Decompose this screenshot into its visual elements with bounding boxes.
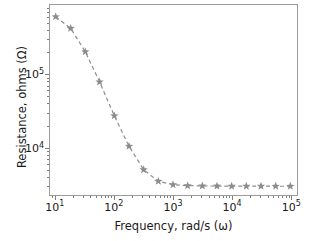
x-tick-minor: [170, 196, 171, 198]
x-tick-minor: [209, 196, 210, 198]
x-tick-minor: [219, 196, 220, 198]
figure-canvas: 101102103104105 104105 Frequency, rad/s …: [0, 0, 310, 241]
x-tick-minor: [250, 196, 251, 198]
x-tick-minor: [229, 196, 230, 198]
x-tick-minor: [191, 196, 192, 198]
y-tick-minor: [47, 39, 49, 40]
data-point-marker: [286, 182, 294, 190]
y-tick-minor: [47, 186, 49, 187]
x-tick-minor: [214, 196, 215, 198]
data-point-marker: [184, 181, 192, 189]
plot-area: [49, 4, 298, 196]
y-tick-minor: [47, 23, 49, 24]
x-tick-minor: [260, 196, 261, 198]
x-tick-label: 104: [223, 200, 242, 213]
data-point-marker: [228, 182, 236, 190]
x-tick-minor: [226, 196, 227, 198]
x-tick-minor: [286, 196, 287, 198]
x-tick-minor: [101, 196, 102, 198]
y-tick-minor: [47, 170, 49, 171]
x-tick-label: 103: [163, 200, 182, 213]
data-point-marker: [213, 182, 221, 190]
data-point-marker: [110, 111, 118, 119]
x-tick-minor: [223, 196, 224, 198]
data-point-marker: [257, 182, 265, 190]
x-tick-minor: [83, 196, 84, 198]
data-point-marker: [242, 182, 250, 190]
y-tick-minor: [47, 8, 49, 9]
data-point-marker: [198, 182, 206, 190]
y-tick-minor: [47, 177, 49, 178]
data-point-marker: [95, 78, 103, 86]
x-tick-minor: [111, 196, 112, 198]
y-tick-minor: [47, 113, 49, 114]
y-tick-minor: [47, 103, 49, 104]
x-tick-minor: [167, 196, 168, 198]
y-tick-minor: [47, 78, 49, 79]
x-tick-minor: [160, 196, 161, 198]
x-tick-minor: [96, 196, 97, 198]
y-tick-major: [45, 148, 49, 149]
x-tick-minor: [273, 196, 274, 198]
x-tick-minor: [201, 196, 202, 198]
y-tick-minor: [47, 159, 49, 160]
x-tick-label: 105: [282, 200, 301, 213]
x-tick-minor: [164, 196, 165, 198]
y-tick-minor: [47, 96, 49, 97]
x-axis-title: Frequency, rad/s (ω): [49, 219, 298, 233]
x-tick-minor: [149, 196, 150, 198]
y-tick-minor: [47, 155, 49, 156]
y-tick-minor: [47, 17, 49, 18]
data-point-marker: [67, 24, 75, 32]
y-tick-major: [45, 74, 49, 75]
series-resistance: [50, 5, 297, 195]
x-tick-minor: [278, 196, 279, 198]
y-tick-minor: [47, 81, 49, 82]
y-axis-title: Resistance, ohms (Ω): [15, 17, 29, 197]
data-point-marker: [125, 142, 133, 150]
x-tick-minor: [132, 196, 133, 198]
x-tick-minor: [142, 196, 143, 198]
x-tick-minor: [52, 196, 53, 198]
x-tick-label: 102: [104, 200, 123, 213]
x-tick-minor: [105, 196, 106, 198]
y-tick-minor: [47, 151, 49, 152]
data-point-marker: [81, 47, 89, 55]
y-tick-minor: [47, 90, 49, 91]
y-tick-minor: [47, 12, 49, 13]
x-tick-minor: [155, 196, 156, 198]
data-point-marker: [169, 180, 177, 188]
y-tick-minor: [47, 86, 49, 87]
x-tick-minor: [289, 196, 290, 198]
x-tick-minor: [73, 196, 74, 198]
data-point-marker: [271, 182, 279, 190]
data-point-marker: [154, 177, 162, 185]
x-tick-minor: [268, 196, 269, 198]
y-tick-minor: [47, 164, 49, 165]
series-line: [56, 17, 291, 186]
x-tick-label: 101: [45, 200, 64, 213]
x-tick-minor: [108, 196, 109, 198]
x-tick-minor: [282, 196, 283, 198]
y-tick-minor: [47, 30, 49, 31]
y-tick-minor: [47, 126, 49, 127]
x-tick-minor: [90, 196, 91, 198]
y-tick-minor: [47, 52, 49, 53]
